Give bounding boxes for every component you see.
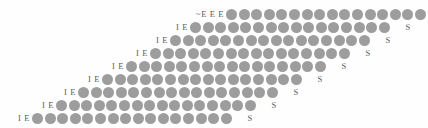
dot-row: I ES: [42, 99, 276, 112]
row-left-label: ~E E E: [196, 10, 224, 19]
dot-marker: [119, 100, 130, 111]
dot-marker: [291, 22, 302, 33]
dot-marker: [264, 9, 275, 20]
dot-marker: [175, 48, 186, 59]
dot-marker: [390, 9, 401, 20]
dot-marker: [239, 61, 250, 72]
dot-marker: [203, 74, 214, 85]
dot-marker: [189, 61, 200, 72]
dot-marker: [252, 61, 263, 72]
dot-marker: [158, 113, 169, 124]
row-dot-group: [56, 100, 258, 111]
dot-marker: [240, 74, 251, 85]
dot-marker: [226, 9, 237, 20]
dot-marker: [150, 48, 161, 59]
dot-marker: [154, 87, 165, 98]
dot-marker: [327, 9, 338, 20]
dot-marker: [140, 74, 151, 85]
row-dot-group: [78, 87, 280, 98]
dot-marker: [288, 48, 299, 59]
dot-marker: [402, 9, 413, 20]
dot-marker: [254, 87, 265, 98]
dot-marker: [127, 74, 138, 85]
row-left-label: I E: [156, 36, 168, 45]
dot-marker: [151, 61, 162, 72]
row-right-label: S: [405, 23, 410, 32]
row-dot-group: [170, 35, 372, 46]
dot-marker: [278, 22, 289, 33]
dot-marker: [339, 48, 350, 59]
dot-marker: [314, 48, 325, 59]
dot-marker: [128, 87, 139, 98]
dot-marker: [359, 35, 370, 46]
dot-marker: [208, 35, 219, 46]
dot-marker: [278, 74, 289, 85]
row-right-label: S: [293, 88, 298, 97]
dot-marker: [302, 9, 313, 20]
dot-marker: [203, 22, 214, 33]
dot-marker: [202, 61, 213, 72]
dot-marker: [215, 22, 226, 33]
dot-marker: [220, 35, 231, 46]
dot-marker: [341, 22, 352, 33]
dot-marker: [232, 100, 243, 111]
dot-marker: [95, 113, 106, 124]
dot-marker: [308, 35, 319, 46]
dot-marker: [276, 9, 287, 20]
dot-marker: [352, 9, 363, 20]
dot-marker: [346, 35, 357, 46]
dot-marker: [233, 35, 244, 46]
dot-marker: [314, 9, 325, 20]
dot-marker: [283, 35, 294, 46]
dot-marker: [229, 87, 240, 98]
dot-marker: [120, 113, 131, 124]
dot-marker: [276, 48, 287, 59]
dot-marker: [263, 48, 274, 59]
dot-marker: [82, 113, 93, 124]
dot-marker: [70, 113, 81, 124]
dot-marker: [152, 74, 163, 85]
dot-marker: [183, 35, 194, 46]
row-left-label: I E: [112, 62, 124, 71]
dot-marker: [377, 9, 388, 20]
dot-marker: [267, 87, 278, 98]
dot-marker: [246, 35, 257, 46]
dot-marker: [290, 61, 301, 72]
dot-marker: [56, 100, 67, 111]
dot-marker: [179, 87, 190, 98]
dot-marker: [81, 100, 92, 111]
dot-marker: [226, 48, 237, 59]
dot-marker: [133, 113, 144, 124]
row-right-label: S: [317, 75, 322, 84]
dot-marker: [289, 9, 300, 20]
dot-marker: [126, 61, 137, 72]
dot-row: I ES: [112, 60, 346, 73]
dot-marker: [266, 22, 277, 33]
dot-marker: [242, 87, 253, 98]
dot-marker: [132, 100, 143, 111]
dot-marker: [228, 22, 239, 33]
dot-marker: [264, 61, 275, 72]
dot-row: ~E E E: [196, 8, 428, 21]
dot-marker: [196, 113, 207, 124]
dot-marker: [215, 74, 226, 85]
dot-marker: [214, 61, 225, 72]
dot-marker: [188, 48, 199, 59]
row-left-label: I E: [64, 88, 76, 97]
row-dot-group: [226, 9, 428, 20]
dot-marker: [169, 100, 180, 111]
dot-marker: [213, 48, 224, 59]
dot-marker: [221, 113, 232, 124]
row-right-label: S: [271, 101, 276, 110]
dot-marker: [45, 113, 56, 124]
dot-row: I ES: [136, 47, 370, 60]
row-dot-group: [126, 61, 328, 72]
dot-marker: [204, 87, 215, 98]
dot-marker: [291, 74, 302, 85]
dot-marker: [277, 61, 288, 72]
dot-marker: [164, 61, 175, 72]
dot-marker: [339, 9, 350, 20]
dot-marker: [183, 113, 194, 124]
dot-marker: [165, 74, 176, 85]
dot-marker: [316, 22, 327, 33]
